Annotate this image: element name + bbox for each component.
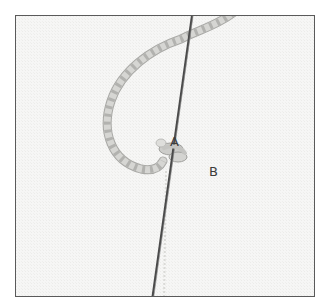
embroidery-photo: A B bbox=[15, 15, 315, 297]
label-b: B bbox=[209, 165, 218, 178]
fabric-texture bbox=[15, 15, 315, 297]
label-a: A bbox=[170, 135, 179, 148]
stitch-illustration bbox=[15, 15, 315, 297]
